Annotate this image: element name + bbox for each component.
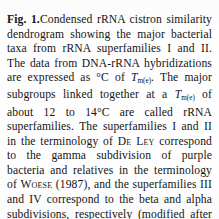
figure-label: Fig. 1. <box>7 13 40 26</box>
melting-temperature-symbol-2: Tm(e) <box>175 88 195 101</box>
temp-symbol-letter: T <box>131 71 138 84</box>
scanned-page: Fig. 1.Condensed rRNA cistron similarity… <box>0 0 219 219</box>
figure-caption: Fig. 1.Condensed rRNA cistron similarity… <box>7 13 212 219</box>
author-citation-de-ley-1: De Ley <box>118 135 155 148</box>
author-citation-woese: Woese <box>20 178 52 191</box>
temp-symbol-subscript: m(e) <box>181 94 195 102</box>
melting-temperature-symbol-1: Tm(e) <box>131 71 151 84</box>
temp-symbol-subscript: m(e) <box>138 77 152 85</box>
